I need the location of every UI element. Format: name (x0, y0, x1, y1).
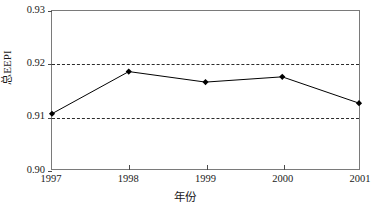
data-point-marker (279, 74, 285, 80)
data-point-marker (49, 111, 55, 117)
x-axis-tick-label: 1999 (176, 174, 236, 185)
series-line (52, 72, 359, 114)
x-axis-tick-label: 1997 (21, 174, 81, 185)
x-axis-tick-label: 2001 (330, 174, 375, 185)
data-series-line (52, 11, 359, 169)
y-axis-tick-label: 0.92 (0, 58, 45, 69)
x-axis-title: 年份 (0, 192, 370, 204)
y-axis-tick-label: 0.91 (0, 111, 45, 122)
y-axis-tick-label: 0.93 (0, 5, 45, 16)
plot-area (51, 10, 360, 170)
x-axis-tick-label: 2000 (253, 174, 313, 185)
data-point-marker (356, 100, 362, 106)
y-axis-tick-mark (48, 171, 52, 172)
data-point-marker (126, 69, 132, 75)
x-axis-tick-label: 1998 (98, 174, 158, 185)
data-point-marker (202, 79, 208, 85)
